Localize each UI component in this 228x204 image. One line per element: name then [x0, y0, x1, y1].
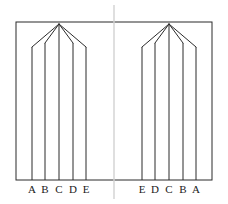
mirror-fan-diagram: ABCDEEDCBA [0, 0, 228, 204]
member-label-e: E [83, 183, 90, 195]
member-label-d: D [151, 183, 159, 195]
member-label-c: C [55, 183, 62, 195]
member-label-d: D [69, 183, 77, 195]
member-label-b: B [41, 183, 48, 195]
member-label-b: B [179, 183, 186, 195]
member-label-a: A [28, 183, 36, 195]
member-label-a: A [192, 183, 200, 195]
member-label-c: C [165, 183, 172, 195]
figure-container: ABCDEEDCBA [0, 0, 228, 204]
member-label-e: E [139, 183, 146, 195]
